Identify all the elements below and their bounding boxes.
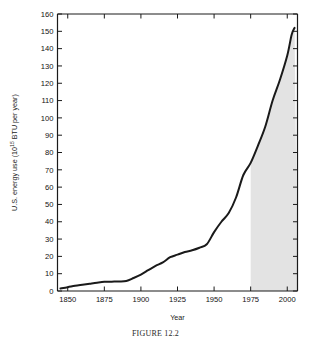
- x-tick-label: 1925: [169, 295, 186, 304]
- y-axis-title-prefix: U.S. energy use (10: [10, 147, 19, 211]
- y-tick-label: 80: [45, 148, 53, 157]
- x-tick-label: 1850: [59, 295, 76, 304]
- x-axis-title: Year: [170, 313, 185, 322]
- x-tick-label: 2000: [279, 295, 296, 304]
- y-tick-label: 10: [45, 269, 53, 278]
- y-tick-label: 100: [41, 114, 54, 123]
- y-tick-label: 0: [49, 287, 53, 296]
- y-tick-label: 130: [41, 62, 54, 71]
- x-tick-label: 1875: [96, 295, 113, 304]
- y-tick-label: 110: [41, 96, 53, 105]
- x-tick-label: 1950: [206, 295, 223, 304]
- y-tick-label: 70: [45, 166, 53, 175]
- y-tick-label: 120: [41, 79, 54, 88]
- y-tick-label: 160: [41, 10, 54, 19]
- y-axis-title-text: U.S. energy use (1015 BTU per year): [9, 94, 19, 211]
- y-axis-title-suffix: BTU per year): [10, 94, 19, 141]
- x-tick-label: 1975: [242, 295, 259, 304]
- figure-caption: FIGURE 12.2: [132, 329, 179, 338]
- figure-container: 0102030405060708090100110120130140150160…: [0, 0, 311, 338]
- y-tick-label: 40: [45, 217, 53, 226]
- y-tick-label: 150: [41, 27, 54, 36]
- x-tick-label: 1900: [132, 295, 149, 304]
- y-tick-label: 50: [45, 200, 53, 209]
- chart-svg: 0102030405060708090100110120130140150160…: [0, 0, 311, 338]
- y-tick-label: 60: [45, 183, 53, 192]
- y-axis-title: U.S. energy use (1015 BTU per year): [9, 94, 19, 211]
- y-tick-label: 20: [45, 252, 53, 261]
- y-tick-label: 140: [41, 44, 54, 53]
- y-tick-label: 30: [45, 235, 53, 244]
- y-tick-label: 90: [45, 131, 53, 140]
